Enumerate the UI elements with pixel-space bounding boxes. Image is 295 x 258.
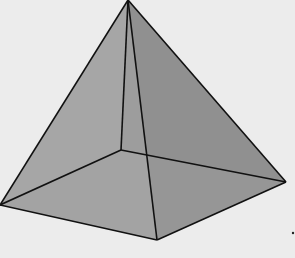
pyramid-diagram [0, 0, 295, 258]
pyramid-figure [0, 0, 295, 258]
stray-mark [292, 232, 294, 234]
